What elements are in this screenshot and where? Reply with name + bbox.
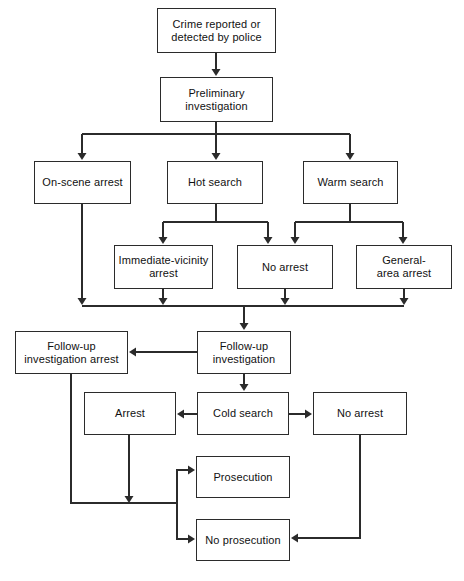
connector-e6	[163, 204, 268, 222]
arrowhead-e22	[125, 496, 134, 503]
node-label: Arrest	[115, 407, 145, 420]
arrowhead-e17	[129, 348, 136, 357]
node-hot[interactable]: Hot search	[167, 161, 263, 204]
node-cold[interactable]: Cold search	[197, 392, 289, 435]
node-label: On-scene arrest	[42, 176, 122, 189]
node-label: Follow-upinvestigation arrest	[24, 340, 118, 366]
arrowhead-e10	[291, 237, 300, 244]
node-label: Crime reported ordetected by police	[171, 18, 261, 44]
arrowhead-e18	[240, 384, 249, 391]
node-label: Preliminaryinvestigation	[185, 87, 247, 113]
flowchart-canvas: Crime reported ordetected by policePreli…	[0, 0, 464, 581]
node-followup[interactable]: Follow-upinvestigation	[197, 331, 291, 374]
node-noarrest1[interactable]: No arrest	[237, 245, 333, 289]
node-label: Cold search	[213, 407, 273, 420]
connector-e9	[295, 204, 403, 222]
connector-e16	[82, 306, 404, 324]
connector-e23	[177, 470, 188, 503]
arrowhead-e8	[264, 237, 273, 244]
node-label: Follow-upinvestigation	[213, 340, 275, 366]
node-noprosecution[interactable]: No prosecution	[196, 519, 290, 561]
arrowhead-e20	[305, 410, 312, 419]
arrowhead-e25	[291, 534, 298, 543]
node-warm[interactable]: Warm search	[303, 161, 398, 204]
node-arrest2[interactable]: Arrest	[84, 392, 176, 435]
arrowhead-e7	[159, 237, 168, 244]
arrowhead-e4	[212, 153, 221, 160]
node-general[interactable]: General-area arrest	[356, 245, 452, 289]
connector-e2	[82, 122, 350, 134]
arrowhead-e23	[188, 466, 195, 475]
arrowhead-e13	[159, 298, 168, 305]
arrowhead-e12	[78, 298, 87, 305]
node-prosecution[interactable]: Prosecution	[196, 456, 290, 498]
arrowhead-e14	[281, 298, 290, 305]
node-followup_arrest[interactable]: Follow-upinvestigation arrest	[15, 331, 128, 374]
node-label: No arrest	[262, 261, 308, 274]
node-label: General-area arrest	[377, 254, 431, 280]
connector-e25	[298, 435, 360, 538]
arrowhead-e19	[177, 410, 184, 419]
arrowhead-e15	[400, 298, 409, 305]
arrowhead-e16	[240, 323, 249, 330]
arrowhead-e11	[399, 237, 408, 244]
node-crime_reported[interactable]: Crime reported ordetected by police	[157, 8, 276, 53]
arrowhead-e5	[346, 153, 355, 160]
node-label: Immediate-vicinityarrest	[119, 254, 209, 280]
node-label: Hot search	[188, 176, 242, 189]
node-label: Prosecution	[213, 471, 272, 484]
arrowhead-e1	[212, 69, 221, 76]
node-immediate[interactable]: Immediate-vicinityarrest	[114, 245, 213, 289]
node-prelim[interactable]: Preliminaryinvestigation	[160, 77, 273, 122]
connector-e24	[177, 503, 188, 539]
node-label: No arrest	[337, 407, 383, 420]
node-onscene[interactable]: On-scene arrest	[34, 161, 131, 204]
node-noarrest2[interactable]: No arrest	[313, 392, 407, 435]
node-label: No prosecution	[205, 534, 280, 547]
node-label: Warm search	[317, 176, 383, 189]
arrowhead-e3	[78, 153, 87, 160]
arrowhead-e24	[188, 535, 195, 544]
